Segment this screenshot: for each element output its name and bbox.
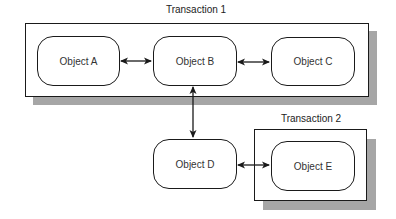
connectors bbox=[0, 0, 396, 219]
